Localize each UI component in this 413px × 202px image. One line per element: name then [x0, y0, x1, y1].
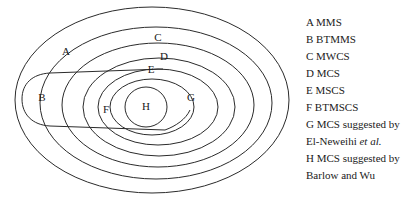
legend-entry-h-continued: Barlow and Wu	[306, 167, 411, 184]
set-ellipse-a	[15, 7, 289, 193]
legend-entry-c: C MWCS	[306, 48, 411, 65]
venn-diagram: A B C D E F G H	[0, 0, 300, 202]
legend-entry-e: E MSCS	[306, 82, 411, 99]
set-shape-b	[22, 69, 190, 130]
region-label-d: D	[160, 50, 168, 62]
legend-entry-d: D MCS	[306, 65, 411, 82]
legend-entry-g-continued: El-Neweihi et al.	[306, 133, 411, 150]
set-ellipse-g	[98, 69, 218, 145]
region-label-g: G	[187, 91, 195, 103]
region-label-c: C	[154, 31, 161, 43]
legend-etal: et al.	[359, 135, 381, 147]
region-label-b: B	[38, 91, 45, 103]
figure-root: A B C D E F G H A MMS B BTMMS C MWCS D M…	[0, 0, 413, 202]
region-label-f: F	[103, 103, 109, 115]
legend-author-name: El-Neweihi	[306, 135, 359, 147]
legend-entry-f: F BTMSCS	[306, 99, 411, 116]
legend-entry-a: A MMS	[306, 14, 411, 31]
region-label-e: E	[148, 63, 155, 75]
set-ellipse-d	[62, 43, 254, 167]
legend-entry-g: G MCS suggested by	[306, 116, 411, 133]
legend-entry-b: B BTMMS	[306, 31, 411, 48]
region-label-h: H	[142, 100, 150, 112]
legend-entry-h: H MCS suggested by	[306, 150, 411, 167]
legend: A MMS B BTMMS C MWCS D MCS E MSCS F BTMS…	[306, 14, 411, 184]
region-label-a: A	[62, 45, 70, 57]
